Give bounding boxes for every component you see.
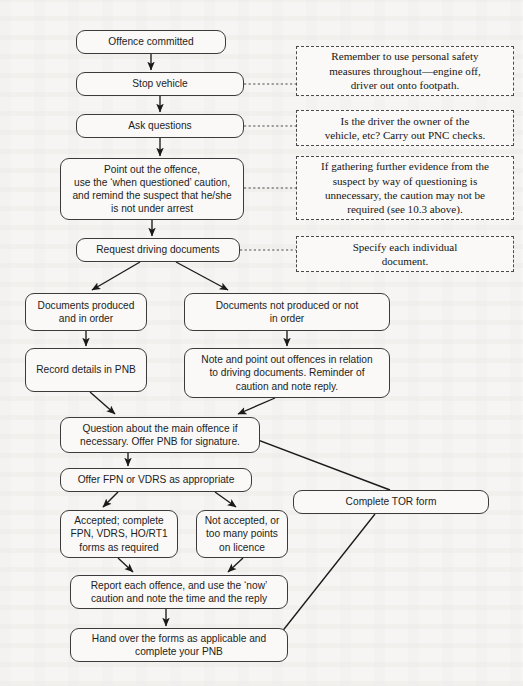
node-stop-vehicle: Stop vehicle: [76, 72, 244, 96]
c-accepted-to-report: [118, 558, 133, 572]
node-hand-over-forms: Hand over the forms as applicable and co…: [70, 628, 288, 662]
c-record-to-question: [90, 392, 115, 414]
node-question-main: Question about the main offence if neces…: [60, 417, 260, 453]
note-note-pnc-checks: Is the driver the owner of the vehicle, …: [296, 110, 514, 146]
node-docs-produced: Documents produced and in order: [25, 293, 147, 331]
c-request-to-produced: [92, 262, 140, 290]
note-note-caution: If gathering further evidence from the s…: [296, 156, 514, 220]
node-offence-committed: Offence committed: [76, 30, 226, 54]
c-offer-to-notaccepted: [215, 492, 236, 507]
node-note-offences: Note and point out offences in relation …: [184, 348, 390, 398]
c-offer-to-accepted: [103, 492, 118, 507]
flowchart-page: Offence committedStop vehicleAsk questio…: [0, 0, 523, 686]
node-accepted-complete: Accepted; complete FPN, VDRS, HO/RT1 for…: [60, 510, 178, 558]
node-point-out-offence: Point out the offence, use the ‘when que…: [60, 158, 244, 220]
note-note-personal-safety: Remember to use personal safety measures…: [296, 46, 514, 96]
node-not-accepted: Not accepted, or too many points on lice…: [196, 510, 288, 558]
c-note-to-question: [238, 398, 275, 414]
c-request-to-notproduced: [176, 262, 228, 290]
c-tor-to-hand: [277, 514, 375, 638]
node-request-documents: Request driving documents: [76, 238, 240, 262]
node-docs-not-produced: Documents not produced or not in order: [184, 293, 390, 331]
node-report-offence: Report each offence, and use the ‘now’ c…: [70, 575, 288, 609]
node-ask-questions: Ask questions: [76, 114, 244, 138]
note-note-specify-doc: Specify each individual document.: [296, 236, 514, 272]
c-notaccepted-to-report: [228, 558, 243, 572]
node-record-pnb: Record details in PNB: [25, 348, 147, 392]
c-question-to-tor: [250, 437, 390, 490]
node-offer-fpn-vdrs: Offer FPN or VDRS as appropriate: [60, 468, 252, 492]
node-complete-tor: Complete TOR form: [293, 490, 489, 514]
